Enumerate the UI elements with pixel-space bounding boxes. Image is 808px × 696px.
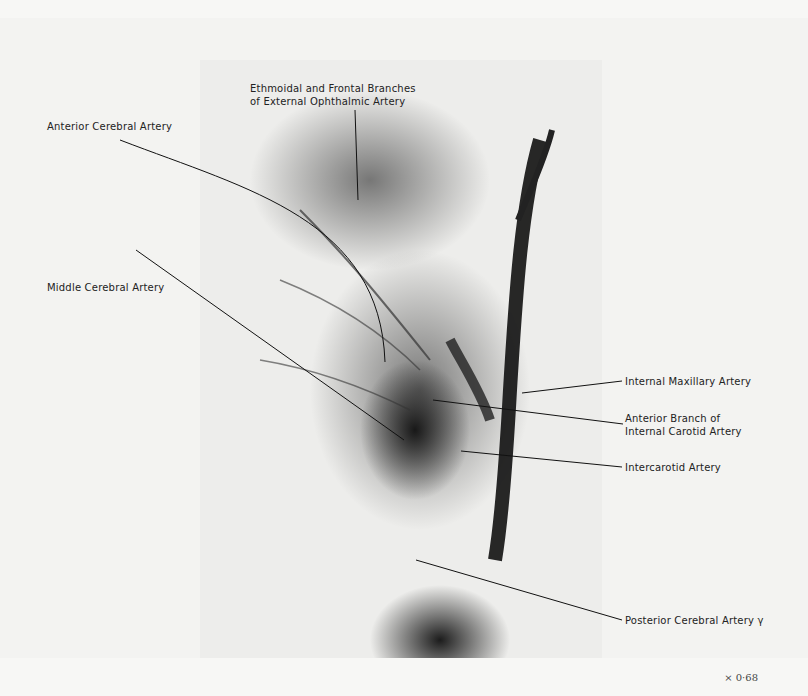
label-posterior-cerebral-artery: Posterior Cerebral Artery γ: [625, 614, 764, 627]
label-line-2: Internal Carotid Artery: [625, 425, 742, 438]
label-anterior-branch-internal-carotid: Anterior Branch of Internal Carotid Arte…: [625, 412, 742, 438]
magnification-label: × 0·68: [724, 672, 758, 683]
label-intercarotid-artery: Intercarotid Artery: [625, 461, 721, 474]
label-internal-maxillary-artery: Internal Maxillary Artery: [625, 375, 751, 388]
label-line-1: Anterior Branch of: [625, 412, 742, 425]
label-ethmoidal-frontal-branches: Ethmoidal and Frontal Branches of Extern…: [250, 82, 416, 108]
label-line-1: Ethmoidal and Frontal Branches: [250, 82, 416, 95]
label-line-2: of External Ophthalmic Artery: [250, 95, 416, 108]
label-anterior-cerebral-artery: Anterior Cerebral Artery: [47, 120, 172, 133]
label-middle-cerebral-artery: Middle Cerebral Artery: [47, 281, 164, 294]
